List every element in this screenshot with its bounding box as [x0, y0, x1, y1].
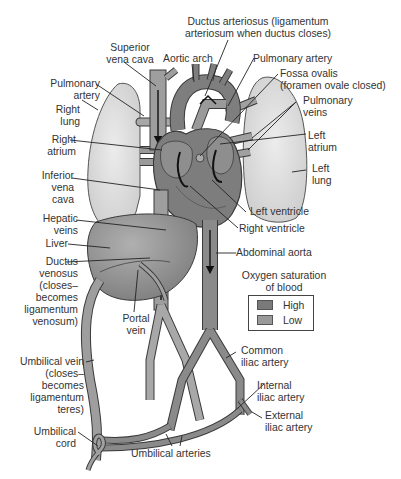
- label-superior-vena-cava: Superior vena cava: [100, 42, 160, 66]
- right-lung: [88, 83, 140, 230]
- label-left-atrium: Left atrium: [308, 130, 337, 154]
- label-ductus-arteriosus: Ductus arteriosus (ligamentum arteriosum…: [168, 16, 348, 40]
- label-portal-vein: Portal vein: [118, 313, 154, 337]
- swatch-high-icon: [257, 300, 273, 310]
- label-common-iliac-artery: Common iliac artery: [241, 345, 288, 369]
- label-umbilical-cord: Umbilical cord: [20, 426, 76, 450]
- label-right-atrium: Right atrium: [36, 134, 76, 158]
- label-pulmonary-artery-left: Pulmonary artery: [44, 78, 100, 102]
- label-hepatic-veins: Hepatic veins: [30, 213, 78, 237]
- label-pulmonary-veins: Pulmonary veins: [303, 95, 353, 119]
- label-internal-iliac-artery: Internal iliac artery: [257, 380, 304, 404]
- label-aortic-arch: Aortic arch: [163, 53, 213, 65]
- label-right-ventricle: Right ventricle: [239, 223, 305, 235]
- label-left-ventricle: Left ventricle: [250, 206, 309, 218]
- swatch-low-icon: [257, 315, 273, 325]
- legend: High Low: [248, 295, 314, 331]
- label-inferior-vena-cava: Inferior vena cava: [30, 170, 74, 206]
- legend-item-low: Low: [257, 313, 302, 327]
- legend-item-high: High: [257, 298, 304, 312]
- legend-title: Oxygen saturation of blood: [234, 270, 334, 294]
- liver: [88, 214, 198, 300]
- label-abdominal-aorta: Abdominal aorta: [236, 247, 312, 259]
- fetal-circulation-diagram: Ductus arteriosus (ligamentum arteriosum…: [0, 0, 401, 479]
- label-external-iliac-artery: External iliac artery: [265, 410, 312, 434]
- label-right-lung: Right lung: [40, 104, 80, 128]
- label-pulmonary-artery-right: Pulmonary artery: [253, 53, 332, 65]
- label-liver: Liver: [30, 238, 68, 250]
- label-fossa-ovalis: Fossa ovalis (foramen ovale closed): [280, 68, 386, 92]
- label-left-lung: Left lung: [312, 163, 332, 187]
- label-umbilical-vein: Umbilical vein (closes– becomes ligament…: [4, 356, 84, 416]
- label-ductus-venosus: Ductus venosus (closes– becomes ligament…: [4, 256, 78, 328]
- label-umbilical-arteries: Umbilical arteries: [131, 448, 211, 460]
